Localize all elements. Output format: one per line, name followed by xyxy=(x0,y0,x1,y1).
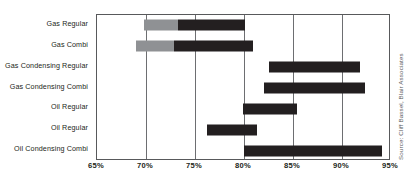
x-axis-tick-label: 85% xyxy=(284,161,300,170)
bar-row xyxy=(97,140,389,161)
x-axis-tick-label: 80% xyxy=(235,161,251,170)
x-axis-tick-label: 70% xyxy=(137,161,153,170)
category-label: Oil Regular xyxy=(51,118,88,139)
bar-row xyxy=(97,98,389,119)
bar-row xyxy=(97,15,389,36)
bar-row xyxy=(97,57,389,78)
category-label: Gas Combi xyxy=(51,35,88,56)
range-bar[interactable] xyxy=(269,62,360,73)
bar-segment-light xyxy=(144,20,178,31)
bar-segment-dark xyxy=(178,20,245,31)
category-label: Oil Condensing Combi xyxy=(14,139,88,160)
bar-segment-dark xyxy=(264,82,365,93)
x-axis-tick-label: 90% xyxy=(333,161,349,170)
category-label: Gas Regular xyxy=(47,14,88,35)
bar-row xyxy=(97,36,389,57)
source-note: Source: Cliff Bassel, Blair Associates xyxy=(393,14,409,160)
category-label: Gas Condensing Combi xyxy=(10,77,88,98)
range-bar[interactable] xyxy=(244,145,382,156)
bar-segment-dark xyxy=(174,41,252,52)
range-bar[interactable] xyxy=(264,82,365,93)
efficiency-range-chart: Gas RegularGas CombiGas Condensing Regul… xyxy=(0,0,417,189)
source-note-text: Source: Cliff Bassel, Blair Associates xyxy=(397,53,404,160)
category-label: Gas Condensing Regular xyxy=(5,56,88,77)
range-bar[interactable] xyxy=(144,20,245,31)
plot-area xyxy=(96,14,390,160)
range-bar[interactable] xyxy=(243,103,297,114)
category-label: Oil Regular xyxy=(51,97,88,118)
bar-segment-dark xyxy=(207,124,257,135)
range-bar[interactable] xyxy=(136,41,253,52)
x-axis-tick-label: 75% xyxy=(186,161,202,170)
x-axis-tick-label: 65% xyxy=(88,161,104,170)
bar-segment-light xyxy=(136,41,174,52)
bar-row xyxy=(97,119,389,140)
bar-segment-dark xyxy=(269,62,360,73)
range-bar[interactable] xyxy=(207,124,257,135)
bar-segment-dark xyxy=(244,145,382,156)
x-axis-tick-labels: 65%70%75%80%85%90%95% xyxy=(96,161,390,175)
bar-row xyxy=(97,78,389,99)
bar-segment-dark xyxy=(243,103,297,114)
category-axis-labels: Gas RegularGas CombiGas Condensing Regul… xyxy=(0,14,92,160)
x-axis-tick-label: 95% xyxy=(382,161,398,170)
